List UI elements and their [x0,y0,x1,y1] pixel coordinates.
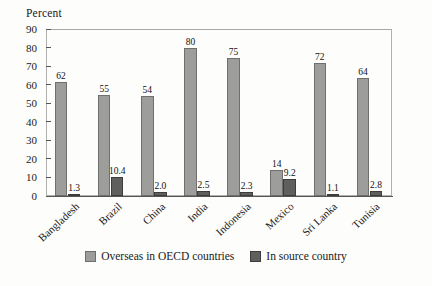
bar-sri-lanka-series1 [327,194,340,196]
x-axis-label-indonesia: Indonesia [214,200,253,238]
bar-group: 5510.4 [98,30,124,196]
x-axis-label-tunisia: Tunisia [350,200,382,231]
y-tick-label: 90 [26,23,37,35]
bar-brazil-series0 [98,95,111,196]
x-axis-label-sri-lanka: Sri Lanka [300,200,340,238]
bar-value-label: 2.8 [370,180,382,190]
x-axis-label-bangladesh: Bangladesh [35,200,81,244]
bar-value-label: 75 [229,47,239,57]
bar-indonesia-series0 [227,58,240,196]
x-axis-labels: BangladeshBrazilChinaIndiaIndonesiaMexic… [47,198,392,246]
bar-india-series1 [197,191,210,196]
legend-item-0[interactable]: Overseas in OECD countries [85,250,234,262]
y-tick-label: 70 [26,60,37,72]
y-tick-label: 50 [26,97,37,109]
bar-value-label: 1.3 [68,183,80,193]
bar-indonesia-series1 [240,192,253,196]
bar-india-series0 [184,48,197,196]
bar-value-label: 62 [56,71,66,81]
x-axis-line [46,196,393,197]
legend-item-1[interactable]: In source country [250,250,346,262]
bar-china-series1 [154,192,167,196]
bar-mexico-series1 [283,179,296,196]
bar-value-label: 2.0 [154,181,166,191]
bar-sri-lanka-series0 [314,63,327,196]
bar-group: 721.1 [314,30,340,196]
legend-label: Overseas in OECD countries [101,250,234,262]
bar-group: 802.5 [184,30,210,196]
bar-group: 149.2 [270,30,296,196]
y-tick-label: 80 [26,42,37,54]
bar-value-label: 54 [143,85,153,95]
bar-chart: Percent 0102030405060708090 621.35510.45… [0,0,432,286]
bar-tunisia-series1 [370,191,383,196]
x-axis-label-brazil: Brazil [96,200,124,227]
bar-mexico-series0 [270,170,283,196]
bar-group: 542.0 [141,30,167,196]
bar-value-label: 1.1 [327,183,339,193]
bar-value-label: 55 [99,84,109,94]
chart-legend: Overseas in OECD countriesIn source coun… [0,250,432,262]
bar-group: 621.3 [55,30,81,196]
bar-value-label: 2.5 [198,180,210,190]
bar-value-label: 64 [358,67,368,77]
y-tick-label: 0 [32,190,38,202]
y-axis-title: Percent [26,7,62,19]
bar-group: 642.8 [357,30,383,196]
y-tick-label: 10 [26,171,37,183]
bar-brazil-series1 [111,177,124,196]
x-axis-label-india: India [185,200,210,224]
bar-bangladesh-series0 [55,82,68,196]
bar-value-label: 72 [315,52,325,62]
bar-group: 752.3 [227,30,253,196]
legend-label: In source country [266,250,346,262]
bar-tunisia-series0 [357,78,370,196]
y-tick-label: 60 [26,79,37,91]
bar-value-label: 80 [186,37,196,47]
plot-bars-area: 621.35510.4542.0802.5752.3149.2721.1642.… [47,30,392,196]
legend-swatch-icon [250,251,261,262]
x-axis-label-china: China [140,200,167,227]
y-tick-label: 40 [26,116,37,128]
bar-value-label: 14 [272,159,282,169]
bar-value-label: 9.2 [284,168,296,178]
y-axis-ticks: 0102030405060708090 [41,29,46,196]
y-tick-label: 20 [26,153,37,165]
bar-china-series0 [141,96,154,196]
y-tick-label: 30 [26,134,37,146]
bar-bangladesh-series1 [68,194,81,196]
x-axis-label-mexico: Mexico [263,200,296,232]
bar-value-label: 10.4 [109,166,126,176]
legend-swatch-icon [85,251,96,262]
bar-value-label: 2.3 [241,181,253,191]
